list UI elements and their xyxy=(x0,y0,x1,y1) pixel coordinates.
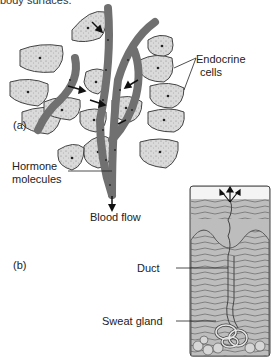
skin-section xyxy=(190,186,270,356)
hormone-label-line2: molecules xyxy=(12,173,62,185)
panel-b-label: (b) xyxy=(13,259,26,271)
sweat-gland-label: Sweat gland xyxy=(102,315,163,327)
panel-a-label: (a) xyxy=(13,119,26,131)
endocrine-cell-cluster xyxy=(10,11,184,170)
blood-flow-arrow-icon xyxy=(108,196,116,212)
endocrine-label-line2: cells xyxy=(200,66,222,78)
blood-flow-label: Blood flow xyxy=(90,211,141,223)
endocrine-label-line1: Endocrine xyxy=(196,53,246,65)
duct-label: Duct xyxy=(137,262,160,274)
hormone-label-line1: Hormone xyxy=(12,160,57,172)
